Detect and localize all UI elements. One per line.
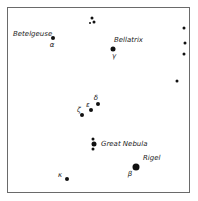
star-dot: [91, 17, 94, 20]
delta-star: [96, 102, 100, 106]
delta-label: δ: [94, 95, 98, 102]
star-dot: [93, 21, 96, 24]
kappa-star: [65, 177, 69, 181]
beta-label: β: [128, 171, 132, 178]
zeta-star: [80, 113, 84, 117]
kappa-label: κ: [58, 172, 62, 179]
nebula-star: [92, 148, 95, 151]
epsilon-star: [89, 108, 93, 112]
bellatrix-label: Bellatrix: [114, 37, 143, 44]
rigel-star: [133, 164, 140, 171]
star-dot: [89, 22, 91, 24]
nebula-star: [92, 142, 97, 147]
nebula-star: [92, 138, 95, 141]
star-dot: [183, 53, 186, 56]
star-dot: [184, 42, 187, 45]
star-dot: [176, 80, 179, 83]
betelgeuse-star: [51, 36, 55, 40]
gamma-label: γ: [112, 53, 116, 60]
betelgeuse-label: Betelgeuse: [13, 31, 52, 38]
great-nebula-label: Great Nebula: [101, 141, 148, 148]
star-dot: [183, 27, 186, 30]
alpha-label: α: [50, 42, 55, 49]
rigel-label: Rigel: [143, 155, 161, 162]
